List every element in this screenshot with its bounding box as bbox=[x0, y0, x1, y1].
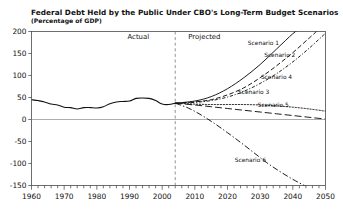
series-label-scenario-6: Scenario 6 bbox=[235, 157, 266, 163]
series-label-scenario-3: Scenario 3 bbox=[238, 89, 269, 95]
series-line-actual bbox=[32, 98, 176, 109]
series-label-scenario-1: Scenario 1 bbox=[248, 40, 279, 46]
y-tick-label: 0 bbox=[22, 115, 27, 124]
y-tick-label: -150 bbox=[10, 181, 27, 190]
period-annotation-projected: Projected bbox=[188, 33, 220, 41]
y-tick-label: 150 bbox=[12, 49, 26, 58]
chart-plot-area: Scenario 1Scenario 2Scenario 4Scenario 3… bbox=[0, 0, 343, 209]
series-line-scenario-5 bbox=[175, 103, 325, 119]
y-tick-label: 50 bbox=[17, 93, 27, 102]
x-tick-label: 1990 bbox=[120, 192, 139, 201]
period-annotation-actual: Actual bbox=[128, 33, 150, 41]
x-tick-label: 2000 bbox=[153, 192, 172, 201]
y-tick-label: 200 bbox=[12, 27, 26, 36]
series-label-scenario-4: Scenario 4 bbox=[261, 74, 292, 80]
x-tick-label: 2020 bbox=[218, 192, 237, 201]
x-tick-label: 2010 bbox=[185, 192, 204, 201]
chart-figure: Federal Debt Held by the Public Under CB… bbox=[0, 0, 343, 209]
x-tick-label: 1960 bbox=[22, 192, 41, 201]
x-tick-label: 1980 bbox=[87, 192, 106, 201]
x-tick-label: 2030 bbox=[251, 192, 270, 201]
x-tick-label: 2050 bbox=[316, 192, 335, 201]
x-tick-label: 1970 bbox=[55, 192, 74, 201]
x-tick-label: 2040 bbox=[283, 192, 302, 201]
series-line-scenario-3 bbox=[175, 103, 325, 111]
series-line-scenario-6 bbox=[175, 103, 306, 186]
annotations-layer: ActualProjected bbox=[128, 33, 221, 41]
series-labels-layer: Scenario 1Scenario 2Scenario 4Scenario 3… bbox=[235, 40, 296, 163]
series-label-scenario-5: Scenario 5 bbox=[258, 102, 289, 108]
y-tick-label: -50 bbox=[14, 137, 26, 146]
y-tick-label: 100 bbox=[12, 71, 26, 80]
series-label-scenario-2: Scenario 2 bbox=[264, 52, 295, 58]
y-tick-label: -100 bbox=[10, 159, 27, 168]
